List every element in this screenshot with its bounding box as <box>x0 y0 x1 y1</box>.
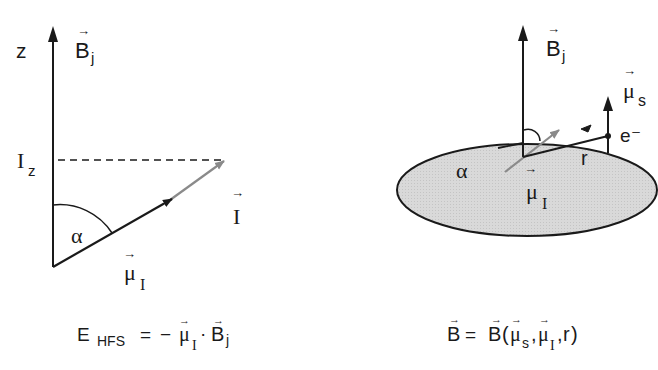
svg-text:B: B <box>546 36 561 61</box>
svg-text:HFS: HFS <box>97 333 125 349</box>
svg-text:·: · <box>200 323 206 344</box>
svg-text:B: B <box>211 323 224 345</box>
vector-arrow-icon: → <box>231 185 244 200</box>
electron-moment-label: → μ s <box>623 63 646 109</box>
svg-text:s: s <box>522 335 529 351</box>
svg-text:μ: μ <box>623 78 635 103</box>
svg-text:,: , <box>557 323 563 345</box>
hyperfine-energy-equation: E HFS = − → μ I · → B j <box>77 314 229 353</box>
svg-text:μ: μ <box>526 179 538 204</box>
electron-moment-arrowhead-icon <box>603 96 613 111</box>
svg-text:I: I <box>192 338 197 353</box>
field-vector-label: → B j <box>546 21 565 64</box>
vector-arrow-icon: → <box>623 63 636 78</box>
angle-arc <box>524 129 540 141</box>
svg-text:μ: μ <box>179 323 190 346</box>
z-axis-label: z <box>16 39 27 62</box>
svg-text:B: B <box>488 323 501 345</box>
right-diagram: → B j → μ s e⁻ r α → μ I <box>397 21 657 353</box>
svg-text:=: = <box>140 324 151 345</box>
svg-text:I: I <box>550 338 555 353</box>
svg-text:s: s <box>638 92 646 109</box>
field-function-equation: → B = → B ( → μ s , → μ I , r ) <box>447 313 578 353</box>
svg-text:(: ( <box>502 323 509 345</box>
svg-text:B: B <box>75 38 90 63</box>
svg-text:I: I <box>140 276 145 293</box>
svg-text:μ: μ <box>538 323 549 346</box>
svg-text:μ: μ <box>510 323 521 346</box>
spin-vector-label: → I <box>231 185 244 229</box>
svg-text:): ) <box>571 323 578 345</box>
svg-text:j: j <box>225 332 229 348</box>
svg-text:−: − <box>160 324 171 345</box>
vector-arrow-icon: → <box>524 161 537 176</box>
angle-label: α <box>71 223 83 248</box>
vector-arrow-icon: → <box>77 23 90 38</box>
svg-text:=: = <box>465 324 476 345</box>
projection-label: I z <box>17 148 36 179</box>
electron-label: e⁻ <box>620 125 641 146</box>
svg-text:B: B <box>447 323 460 345</box>
svg-text:z: z <box>28 162 36 179</box>
svg-text:μ: μ <box>124 260 136 285</box>
field-axis-arrowhead-icon <box>518 25 528 41</box>
radius-label: r <box>581 147 588 169</box>
orbit-direction-arrowhead-icon <box>581 125 591 132</box>
angle-label: α <box>456 158 468 183</box>
svg-text:I: I <box>233 204 240 229</box>
field-vector-label: → B j <box>75 23 94 66</box>
svg-text:E: E <box>77 324 90 345</box>
vector-arrow-icon: → <box>123 246 136 261</box>
left-diagram: z → B j I z α → I → μ I <box>16 23 244 353</box>
svg-text:I: I <box>17 148 24 173</box>
svg-text:I: I <box>542 195 547 212</box>
svg-text:j: j <box>561 47 565 64</box>
vector-arrow-icon: → <box>547 21 560 36</box>
z-axis-arrowhead-icon <box>48 26 58 42</box>
svg-text:,: , <box>531 323 537 345</box>
svg-text:j: j <box>90 49 94 66</box>
moment-vector-label: → μ I <box>123 246 145 293</box>
spin-vector <box>170 161 224 200</box>
svg-text:r: r <box>563 323 570 345</box>
